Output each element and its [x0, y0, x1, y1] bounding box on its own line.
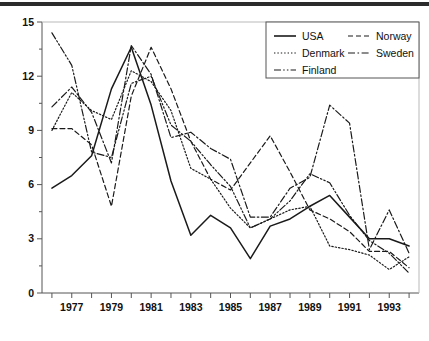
legend-label-sweden: Sweden — [376, 47, 414, 59]
y-tick-label: 6 — [28, 178, 34, 190]
x-tick-label: 1985 — [219, 301, 243, 313]
x-tick-label: 1983 — [179, 301, 203, 313]
y-tick-label: 3 — [28, 232, 34, 244]
series-line-denmark — [52, 71, 409, 270]
legend-label-finland: Finland — [302, 64, 337, 76]
x-tick-label: 1987 — [259, 301, 283, 313]
y-tick-label: 15 — [22, 16, 34, 28]
y-tick-label: 9 — [28, 124, 34, 136]
x-tick-label: 1991 — [338, 301, 362, 313]
line-chart-figure: 0369121519771979198119831985198719891991… — [0, 0, 429, 341]
x-tick-label: 1977 — [60, 301, 84, 313]
legend-label-norway: Norway — [376, 30, 412, 42]
x-tick-label: 1981 — [139, 301, 163, 313]
plot-canvas: 0369121519771979198119831985198719891991… — [0, 0, 429, 341]
series-line-norway — [52, 47, 409, 267]
y-tick-label: 0 — [28, 287, 34, 299]
x-tick-label: 1979 — [100, 301, 124, 313]
y-tick-label: 12 — [22, 70, 34, 82]
legend-label-usa: USA — [302, 30, 324, 42]
chart-screenshot: 0369121519771979198119831985198719891991… — [0, 0, 429, 341]
legend-label-denmark: Denmark — [302, 47, 345, 59]
x-tick-label: 1989 — [298, 301, 322, 313]
x-tick-label: 1993 — [378, 301, 402, 313]
series-line-usa — [52, 47, 409, 258]
